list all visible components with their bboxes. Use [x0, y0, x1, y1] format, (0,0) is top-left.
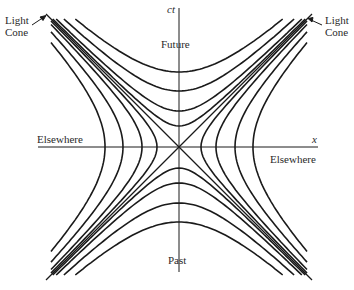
light-cone-left-label-line1: Light	[5, 14, 29, 26]
past-label: Past	[168, 254, 186, 266]
light-cone-pointers	[32, 16, 322, 26]
future-label: Future	[161, 38, 190, 50]
elsewhere-left-label: Elsewhere	[37, 133, 83, 145]
light-cone-left-label-line2: Cone	[5, 26, 28, 38]
right-arrowhead-icon	[308, 18, 313, 23]
elsewhere-right-label: Elsewhere	[270, 153, 316, 165]
x-axis-label: x	[312, 133, 317, 145]
left-arrowhead-icon	[40, 16, 46, 21]
light-cone-right-label-line2: Cone	[325, 26, 348, 38]
ct-axis-label: ct	[167, 3, 175, 15]
light-cone-right-label-line1: Light	[325, 14, 349, 26]
